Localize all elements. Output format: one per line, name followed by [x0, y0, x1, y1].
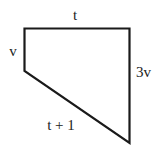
- label-top: t: [73, 7, 78, 23]
- label-left: v: [9, 43, 17, 59]
- label-right: 3v: [136, 64, 152, 80]
- quadrilateral-figure: t v 3v t + 1: [0, 0, 163, 148]
- quadrilateral-shape: [25, 29, 130, 144]
- label-bottom: t + 1: [47, 117, 75, 133]
- diagram-canvas: t v 3v t + 1: [0, 0, 163, 148]
